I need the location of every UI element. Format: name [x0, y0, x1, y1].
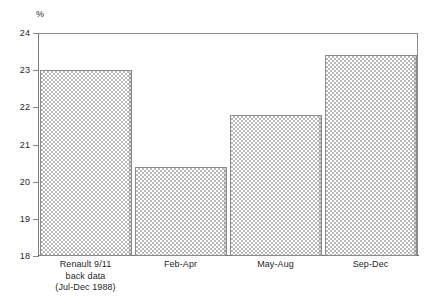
y-axis-unit-label: %	[36, 9, 44, 20]
y-tick-label: 24	[8, 28, 30, 38]
bar-edge-shade	[224, 168, 226, 255]
x-axis-label: May-Aug	[228, 259, 323, 271]
bar-edge-shade	[129, 71, 131, 255]
x-axis-label: Sep-Dec	[323, 259, 418, 271]
x-axis-labels: Renault 9/11 back data (Jul-Dec 1988)Feb…	[38, 259, 418, 303]
x-axis-label: Feb-Apr	[133, 259, 228, 271]
x-axis-label: Renault 9/11 back data (Jul-Dec 1988)	[38, 259, 133, 294]
bar-edge-shade	[414, 56, 416, 255]
y-tick-label: 21	[8, 140, 30, 150]
bar	[135, 167, 227, 256]
y-tick-mark	[33, 256, 38, 257]
y-tick-label: 23	[8, 65, 30, 75]
y-tick-label: 18	[8, 251, 30, 261]
y-tick-label: 19	[8, 214, 30, 224]
bars-group	[38, 33, 418, 256]
bar	[230, 115, 322, 256]
y-tick-label: 22	[8, 102, 30, 112]
bar-chart: % 24232221201918 Renault 9/11 back data …	[0, 0, 433, 303]
y-tick-label: 20	[8, 177, 30, 187]
bar	[40, 70, 132, 256]
bar	[325, 55, 417, 256]
bar-edge-shade	[319, 116, 321, 255]
